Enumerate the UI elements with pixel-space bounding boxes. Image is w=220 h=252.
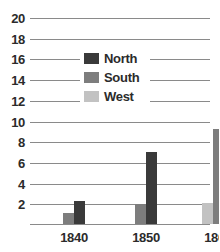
y-tick-label: 4 [1,178,25,191]
y-tick-label: 14 [1,74,25,87]
bar-south-1840 [63,213,74,224]
x-tick-label: 1840 [52,231,96,244]
bar-south-1850 [135,204,146,224]
legend-item-west: West [84,87,146,106]
legend-item-south: South [84,68,146,87]
y-tick-label: 2 [1,198,25,211]
legend-item-north: North [84,49,146,68]
y-tick-label: 12 [1,95,25,108]
y-tick-label: 20 [1,12,25,25]
bar-north-1850 [146,152,157,224]
x-axis-line [30,224,210,225]
y-tick-label: 10 [1,116,25,129]
legend-label: North [104,52,137,65]
y-tick-label: 18 [1,33,25,46]
x-tick-label: 1860 [196,231,219,244]
legend-label: West [104,90,134,103]
bar-north-1840 [74,201,85,224]
legend-label: South [104,71,139,84]
bar-chart: 2018161412108642 NorthSouthWest 18401850… [0,0,219,252]
bar-west-1860 [202,203,213,224]
y-tick-label: 16 [1,53,25,66]
legend-swatch-north [84,53,99,64]
legend: NorthSouthWest [84,49,146,106]
x-tick-label: 1850 [124,231,168,244]
legend-swatch-south [84,72,99,83]
y-tick-label: 8 [1,136,25,149]
bar-south-1860 [213,129,220,224]
legend-swatch-west [84,91,99,102]
y-tick-label: 6 [1,157,25,170]
